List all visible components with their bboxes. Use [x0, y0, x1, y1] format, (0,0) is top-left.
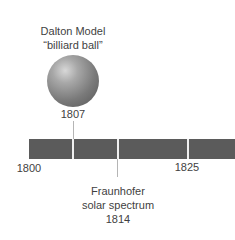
- dalton-tick: [73, 121, 74, 139]
- bar-divider: [117, 139, 119, 159]
- fraunhofer-tick: [117, 159, 118, 177]
- fraunhofer-subtitle: solar spectrum: [68, 198, 168, 212]
- fraunhofer-title: Fraunhofer: [68, 184, 168, 198]
- billiard-ball-sphere-icon: [47, 55, 99, 107]
- year-1800-label: 1800: [14, 161, 44, 175]
- year-1825-label: 1825: [172, 160, 202, 174]
- dalton-subtitle: “billiard ball”: [23, 38, 123, 52]
- fraunhofer-year: 1814: [68, 212, 168, 226]
- bar-divider: [187, 139, 189, 159]
- dalton-title: Dalton Model: [23, 24, 123, 38]
- bar-divider: [72, 139, 74, 159]
- dalton-year: 1807: [48, 107, 98, 121]
- timeline-bar: [29, 139, 235, 159]
